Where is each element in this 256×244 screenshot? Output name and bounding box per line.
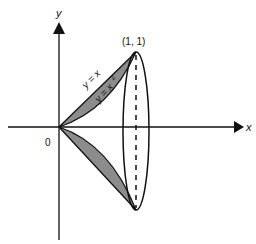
origin-label: 0 <box>45 137 51 148</box>
x-axis-arrow-icon <box>234 121 244 133</box>
point-label: (1, 1) <box>122 36 145 47</box>
y-axis-label: y <box>55 7 63 19</box>
x-axis-label: x <box>245 121 252 133</box>
solid-of-revolution-diagram: x y 0 (1, 1) y = x y = x 2 <box>0 0 256 244</box>
diagram-svg: x y 0 (1, 1) y = x y = x 2 <box>0 0 256 244</box>
y-axis-arrow-icon <box>53 22 65 34</box>
